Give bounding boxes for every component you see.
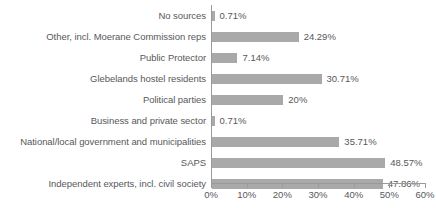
bar-group: 7.14% bbox=[212, 53, 269, 63]
x-axis-tick-label: 0% bbox=[204, 189, 218, 200]
x-axis-tick bbox=[354, 184, 355, 188]
x-axis-tick-label: 10% bbox=[237, 189, 256, 200]
category-label: Political parties bbox=[8, 94, 206, 105]
x-axis-tick-label: 40% bbox=[344, 189, 363, 200]
bar bbox=[212, 116, 215, 126]
bar-group: 20% bbox=[212, 95, 307, 105]
bar-group: 48.57% bbox=[212, 158, 422, 168]
x-axis-tick bbox=[247, 184, 248, 188]
bar-value-label: 0.71% bbox=[220, 10, 247, 21]
bar-value-label: 20% bbox=[288, 94, 307, 105]
bar-group: 30.71% bbox=[212, 74, 359, 84]
category-label: Public Protector bbox=[8, 52, 206, 63]
category-label: Glebelands hostel residents bbox=[8, 73, 206, 84]
bar bbox=[212, 137, 339, 147]
chart-bar-row: No sources0.71% bbox=[0, 5, 436, 26]
bar-group: 0.71% bbox=[212, 116, 246, 126]
category-label: Independent experts, incl. civil society bbox=[8, 178, 206, 189]
x-axis-tick bbox=[282, 184, 283, 188]
bar bbox=[212, 95, 283, 105]
bar-value-label: 24.29% bbox=[304, 31, 336, 42]
bar-value-label: 30.71% bbox=[327, 73, 359, 84]
category-label: Business and private sector bbox=[8, 115, 206, 126]
category-label: National/local government and municipali… bbox=[8, 136, 206, 147]
bar bbox=[212, 53, 237, 63]
chart-bar-row: Other, incl. Moerane Commission reps24.2… bbox=[0, 26, 436, 47]
bar bbox=[212, 11, 215, 21]
bar-value-label: 7.14% bbox=[242, 52, 269, 63]
bar-group: 24.29% bbox=[212, 32, 336, 42]
y-axis-line bbox=[211, 5, 212, 183]
chart-bar-row: Public Protector7.14% bbox=[0, 47, 436, 68]
chart-bar-row: Business and private sector0.71% bbox=[0, 110, 436, 131]
x-axis-tick bbox=[318, 184, 319, 188]
x-axis-tick bbox=[389, 184, 390, 188]
category-label: SAPS bbox=[8, 157, 206, 168]
chart-bar-row: Political parties20% bbox=[0, 89, 436, 110]
x-axis-tick-label: 50% bbox=[380, 189, 399, 200]
category-label: Other, incl. Moerane Commission reps bbox=[8, 31, 206, 42]
category-label: No sources bbox=[8, 10, 206, 21]
x-axis-tick-label: 60% bbox=[415, 189, 434, 200]
bar-group: 35.71% bbox=[212, 137, 377, 147]
bar-group: 0.71% bbox=[212, 11, 246, 21]
x-axis-tick-label: 30% bbox=[308, 189, 327, 200]
bar-chart: No sources0.71%Other, incl. Moerane Comm… bbox=[0, 0, 436, 208]
bar bbox=[212, 74, 322, 84]
chart-bar-row: Glebelands hostel residents30.71% bbox=[0, 68, 436, 89]
bar bbox=[212, 158, 385, 168]
bar-value-label: 35.71% bbox=[344, 136, 376, 147]
bar-value-label: 0.71% bbox=[220, 115, 247, 126]
chart-bar-row: National/local government and municipali… bbox=[0, 131, 436, 152]
x-axis-tick bbox=[211, 184, 212, 188]
bar-value-label: 48.57% bbox=[390, 157, 422, 168]
bar bbox=[212, 32, 299, 42]
x-axis-tick-label: 20% bbox=[273, 189, 292, 200]
x-axis-tick bbox=[425, 184, 426, 188]
chart-bar-row: SAPS48.57% bbox=[0, 152, 436, 173]
chart-plot-area: No sources0.71%Other, incl. Moerane Comm… bbox=[0, 0, 436, 183]
